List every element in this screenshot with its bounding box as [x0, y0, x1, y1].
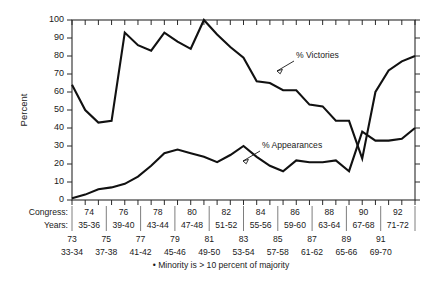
- x-label-years-upper: 67-68: [353, 220, 375, 230]
- footnote-text: • Minority is > 10 percent of majority: [153, 260, 290, 270]
- x-label-years-lower: 45-46: [164, 247, 186, 257]
- y-tick-label: 20: [54, 158, 64, 168]
- bottom-axis-ticks: [72, 200, 415, 205]
- annotation-victories-label: % Victories: [296, 50, 339, 60]
- x-label-congress-lower: 91: [376, 234, 386, 244]
- row-label-years: Years:: [44, 220, 68, 230]
- x-label-congress-lower: 83: [239, 234, 249, 244]
- x-label-congress-upper: 92: [393, 207, 403, 217]
- x-label-years-lower: 33-34: [61, 247, 83, 257]
- x-label-years-upper: 43-44: [147, 220, 169, 230]
- chart-svg: 0102030405060708090100 Percent % Victori…: [0, 0, 442, 284]
- y-tick-label: 100: [49, 14, 64, 24]
- y-tick-label: 0: [59, 194, 64, 204]
- x-label-congress-upper: 82: [222, 207, 232, 217]
- y-tick-label: 30: [54, 140, 64, 150]
- right-axis-ticks: [415, 20, 420, 200]
- x-label-years-lower: 61-62: [301, 247, 323, 257]
- x-label-congress-lower: 77: [136, 234, 146, 244]
- x-label-congress-upper: 80: [187, 207, 197, 217]
- x-label-years-upper: 59-60: [284, 220, 306, 230]
- annotation-appearances-label: % Appearances: [262, 140, 322, 150]
- x-label-congress-upper: 86: [290, 207, 300, 217]
- y-tick-label: 60: [54, 86, 64, 96]
- y-tick-label: 50: [54, 104, 64, 114]
- x-label-years-lower: 37-38: [95, 247, 117, 257]
- x-label-congress-lower: 87: [307, 234, 317, 244]
- y-tick-label: 40: [54, 122, 64, 132]
- y-tick-label: 10: [54, 176, 64, 186]
- x-label-congress-lower: 81: [204, 234, 214, 244]
- x-label-years-lower: 49-50: [198, 247, 220, 257]
- x-label-years-lower: 41-42: [130, 247, 152, 257]
- y-tick-label: 70: [54, 68, 64, 78]
- x-label-years-upper: 47-48: [181, 220, 203, 230]
- x-label-congress-lower: 89: [342, 234, 352, 244]
- x-label-years-upper: 39-40: [112, 220, 134, 230]
- x-label-congress-upper: 76: [119, 207, 129, 217]
- x-label-congress-upper: 78: [153, 207, 163, 217]
- x-label-congress-upper: 88: [324, 207, 334, 217]
- x-label-years-upper: 71-72: [387, 220, 409, 230]
- x-label-congress-lower: 73: [67, 234, 77, 244]
- x-label-years-lower: 65-66: [335, 247, 357, 257]
- x-label-congress-lower: 85: [273, 234, 283, 244]
- x-label-congress-upper: 90: [359, 207, 369, 217]
- x-label-years-upper: 51-52: [215, 220, 237, 230]
- x-label-years-upper: 55-56: [250, 220, 272, 230]
- x-label-congress-upper: 84: [256, 207, 266, 217]
- x-label-years-lower: 53-54: [233, 247, 255, 257]
- x-axis-lower-labels: 7333-347537-387741-427945-468149-508353-…: [61, 234, 392, 257]
- x-label-years-lower: 69-70: [370, 247, 392, 257]
- x-label-congress-lower: 75: [102, 234, 112, 244]
- x-label-congress-upper: 74: [84, 207, 94, 217]
- x-label-years-upper: 63-64: [318, 220, 340, 230]
- x-label-congress-lower: 79: [170, 234, 180, 244]
- x-label-years-upper: 35-36: [78, 220, 100, 230]
- x-label-years-lower: 57-58: [267, 247, 289, 257]
- y-tick-label: 90: [54, 32, 64, 42]
- y-axis-title: Percent: [18, 93, 29, 126]
- chart-figure: 0102030405060708090100 Percent % Victori…: [0, 0, 442, 284]
- row-label-congress: Congress:: [29, 207, 68, 217]
- y-tick-label: 80: [54, 50, 64, 60]
- y-axis: 0102030405060708090100: [49, 14, 72, 204]
